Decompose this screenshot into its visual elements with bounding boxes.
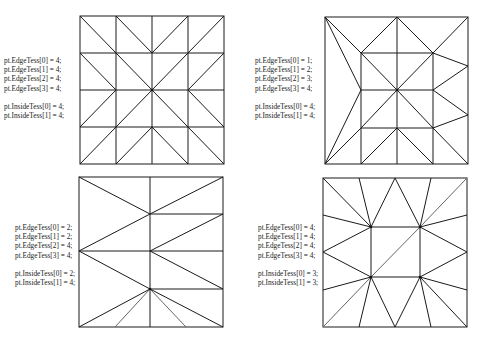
tess-mesh-top-right [325,17,468,164]
tess-mesh-bottom-right [323,178,467,327]
tess-mesh-bottom-left [79,177,223,327]
tess-mesh-top-left [80,16,224,164]
tessellation-diagrams [0,0,479,337]
